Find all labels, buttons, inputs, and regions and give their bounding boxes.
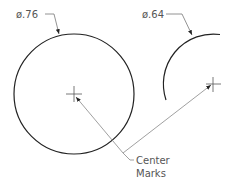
callout-line-1: Center (136, 155, 171, 166)
left-dimension-label: ø.76 (16, 9, 38, 20)
left-center-mark (66, 86, 82, 102)
right-dimension-leader (166, 14, 192, 35)
drawing-canvas: ø.76 ø.64 Center Marks (0, 0, 239, 181)
right-dimension-label: ø.64 (142, 9, 164, 20)
right-arc (163, 34, 220, 100)
center-marks-leaders (76, 85, 211, 160)
right-center-mark (206, 77, 221, 92)
callout-line-2: Marks (136, 168, 166, 179)
left-dimension-leader (45, 14, 59, 34)
